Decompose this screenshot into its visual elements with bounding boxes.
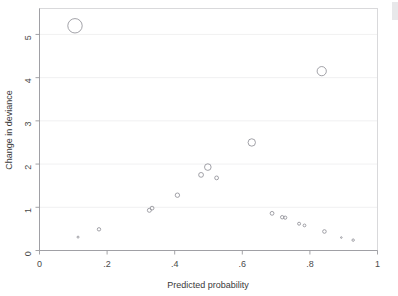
x-tick-label-5: 1 [375,259,380,269]
y-tick-label-3: 3 [24,122,34,127]
bubble-scatter-plot: 012345 0.2.4.6.81 Predicted probability … [0,0,398,296]
x-tick-label-2: .4 [171,259,179,269]
x-tick-label-3: .6 [239,259,247,269]
x-tick-label-0: 0 [37,259,42,269]
x-tick-label-1: .2 [103,259,111,269]
y-tick-label-4: 4 [24,78,34,83]
figure-background [0,0,398,296]
y-tick-label-0: 0 [24,251,34,256]
y-tick-label-2: 2 [24,165,34,170]
y-axis-label: Change in deviance [4,90,14,170]
y-tick-label-1: 1 [24,208,34,213]
chart-figure: 012345 0.2.4.6.81 Predicted probability … [0,0,398,296]
y-tick-label-5: 5 [24,35,34,40]
edge-artifact [392,2,398,20]
x-tick-label-4: .8 [306,259,314,269]
x-axis-label: Predicted probability [167,280,249,290]
